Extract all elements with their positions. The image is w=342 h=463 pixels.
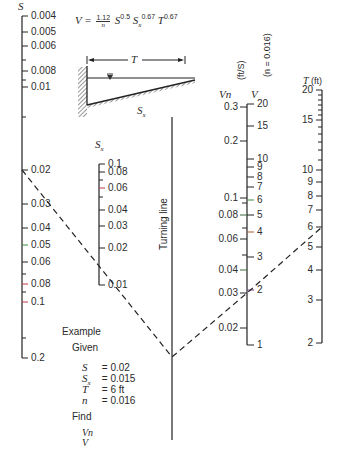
t-axis-tick-label: 7 [307,205,313,215]
find-label: Find [72,411,91,422]
equation: V = 1.12 n S0.5 Sx0.67 T0.67 [75,13,178,29]
v-axis-tick-label: 6 [257,195,263,205]
s-axis-tick-label: 0.05 [31,240,50,250]
sx-axis-tick-label: 0.03 [108,221,127,231]
equation-coefficient: 1.12 n [96,14,110,29]
turning-line-label: Turning line [158,198,169,250]
v-axis-tick-label: 1 [257,340,263,350]
vn-axis-tick-label: 0.08 [219,210,238,220]
s-axis-tick-label: 0.03 [31,199,50,209]
vn-unit-label: (ft/S) [236,61,246,81]
sx-axis-tick-label: 0.02 [108,243,127,253]
s-axis-tick-label: 0.1 [31,297,45,307]
t-axis-tick-label: 9 [307,177,313,187]
t-axis-tick-label: 10 [302,165,313,175]
arrow-left-icon [88,58,94,62]
find-v: V [82,437,88,448]
sx-axis-tick-label: 0.08 [108,167,127,177]
given-row: T = 6 ft [82,384,124,395]
t-axis-tick-label: 8 [307,191,313,201]
v-axis-tick-label: 3 [257,252,263,262]
t-axis-tick-label: 4 [307,265,313,275]
t-axis-tick-label: 20 [302,85,313,95]
t-axis-tick-label: 6 [307,222,313,232]
vn-axis-tick-label: 0.1 [224,193,238,203]
v-axis-tick-label: 2 [257,285,263,295]
s-axis-tick-label: 0.008 [31,66,56,76]
v-subtitle: (n = 0.016) [262,33,272,77]
vn-axis-title: Vn [219,88,231,100]
v-axis-ticks [247,104,254,345]
t-axis-tick-label: 15 [302,115,313,125]
v-axis-tick-label: 7 [257,182,263,192]
s-axis-tick-label: 0.006 [31,41,56,51]
t-axis-ticks [316,90,322,343]
t-axis-tick-label: 2 [307,338,313,348]
v-axis-tick-label: 5 [257,210,263,220]
given-row: S = 0.02 [82,362,130,373]
sx-axis-tick-label: 0.01 [108,280,127,290]
t-axis-tick-label: 3 [307,295,313,305]
vn-axis-tick-label: 0.06 [219,234,238,244]
v-axis-tick-label: 15 [257,121,268,131]
vn-axis-tick-label: 0.03 [219,288,238,298]
width-label: T [131,54,137,64]
sx-axis-title: Sx [95,138,104,153]
s-axis-tick-label: 0.08 [31,279,50,289]
vn-axis-tick-label: 0.04 [219,265,238,275]
vn-axis-ticks [240,107,247,328]
slope-label: Sx [137,105,146,120]
t-axis-tick-label: 5 [307,242,313,252]
sx-axis-tick-label: 0.06 [108,183,127,193]
equation-lhs: V = [75,14,92,26]
vn-axis-tick-label: 0.3 [224,102,238,112]
s-axis-ticks [22,16,28,358]
v-axis-tick-label: 20 [257,99,268,109]
s-axis-tick-label: 0.01 [31,82,50,92]
arrow-right-icon [178,58,184,62]
s-axis-tick-label: 0.04 [31,223,50,233]
s-axis-title: S [18,0,24,12]
s-axis-tick-label: 0.2 [31,353,45,363]
given-label: Given [72,342,98,353]
s-axis-tick-label: 0.005 [31,27,56,37]
s-axis-tick-label: 0.06 [31,257,50,267]
example-heading: Example [62,326,101,337]
given-row: n = 0.016 [82,395,135,406]
sx-axis-tick-label: 0.04 [108,205,127,215]
curb-hatching [78,67,87,117]
vn-axis-tick-label: 0.02 [219,323,238,333]
vn-axis-tick-label: 0.2 [224,136,238,146]
s-axis-tick-label: 0.004 [31,11,56,21]
v-axis-tick-label: 4 [257,227,263,237]
s-axis-tick-label: 0.02 [31,165,50,175]
